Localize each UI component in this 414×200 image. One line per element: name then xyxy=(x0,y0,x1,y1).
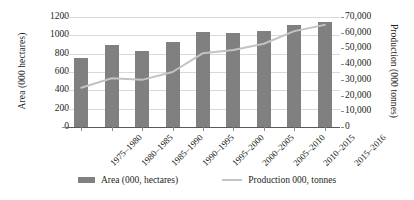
combo-chart: Area (000 hectares) Production (000 tonn… xyxy=(0,0,414,200)
y-tick-label-right: 70,000 xyxy=(345,12,371,22)
legend-label-production: Production 000, tonnes xyxy=(248,175,336,185)
x-tick-mark xyxy=(203,127,204,131)
legend-item-production: Production 000, tonnes xyxy=(222,175,336,185)
x-tick-label: 2015–2016 xyxy=(353,133,388,168)
x-tick-mark xyxy=(233,127,234,131)
plot-area xyxy=(66,17,340,127)
y-tick-label-right: 40,000 xyxy=(345,59,371,69)
x-tick-mark xyxy=(264,127,265,131)
y-tick-mark-left xyxy=(62,54,65,55)
y-tick-mark-right xyxy=(341,64,344,65)
y-tick-label-right: 10,000 xyxy=(345,106,371,116)
y-tick-label-right: 0 xyxy=(345,122,350,132)
x-tick-mark xyxy=(294,127,295,131)
y-tick-mark-left xyxy=(62,109,65,110)
line-series xyxy=(66,17,340,127)
y-tick-mark-right xyxy=(341,111,344,112)
y-tick-mark-left xyxy=(62,17,65,18)
y-tick-label-right: 20,000 xyxy=(345,91,371,101)
y-tick-mark-right xyxy=(341,17,344,18)
x-tick-label: 2005–2010 xyxy=(292,133,327,168)
y-tick-mark-right xyxy=(341,127,344,128)
y-tick-mark-left xyxy=(62,72,65,73)
y-axis-right-title: Production (000 tonnes) xyxy=(389,8,399,134)
legend-label-area: Area (000, hectares) xyxy=(101,175,178,185)
bar-swatch-icon xyxy=(78,177,95,183)
x-tick-mark xyxy=(173,127,174,131)
y-tick-mark-left xyxy=(62,35,65,36)
y-tick-mark-left xyxy=(62,127,65,128)
x-tick-mark xyxy=(112,127,113,131)
y-tick-mark-right xyxy=(341,33,344,34)
y-tick-label-right: 60,000 xyxy=(345,28,371,38)
x-tick-label: 1975–1980 xyxy=(109,133,144,168)
chart-legend: Area (000, hectares) Production 000, ton… xyxy=(0,175,414,185)
y-tick-label-right: 50,000 xyxy=(345,43,371,53)
x-tick-mark xyxy=(81,127,82,131)
x-tick-label: 2000–2005 xyxy=(261,133,296,168)
y-tick-mark-right xyxy=(341,96,344,97)
y-tick-mark-right xyxy=(341,48,344,49)
legend-item-area: Area (000, hectares) xyxy=(78,175,178,185)
y-tick-mark-right xyxy=(341,80,344,81)
y-axis-left-title: Area (000 hectares) xyxy=(17,11,27,131)
x-tick-mark xyxy=(142,127,143,131)
x-tick-label: 1980–1985 xyxy=(140,133,175,168)
x-tick-label: 1990–1995 xyxy=(200,133,235,168)
x-tick-mark xyxy=(325,127,326,131)
y-tick-label-right: 30,000 xyxy=(345,75,371,85)
line-swatch-icon xyxy=(222,179,242,181)
y-tick-mark-left xyxy=(62,90,65,91)
